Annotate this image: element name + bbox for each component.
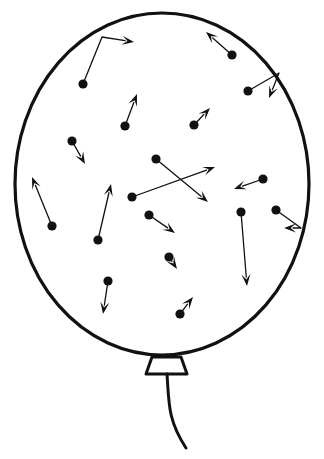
particle-dot xyxy=(103,276,112,285)
particle-dot xyxy=(120,121,129,130)
particle-dot xyxy=(227,50,236,59)
balloon-body xyxy=(15,13,309,355)
balloon-group xyxy=(15,13,309,448)
particle-dot xyxy=(127,192,136,201)
balloon-string xyxy=(167,374,186,448)
particle-dot xyxy=(189,120,198,129)
balloon-gas-particles-diagram: Gas particles in a balloon Hand-drawn in… xyxy=(0,0,324,459)
particle-dot xyxy=(271,205,280,214)
balloon-neck-knot xyxy=(146,357,187,374)
particle-dot xyxy=(67,136,76,145)
particle-dot xyxy=(47,221,56,230)
particle-dot xyxy=(144,210,153,219)
particle-dot xyxy=(151,154,160,163)
particle-dot xyxy=(164,252,173,261)
particle-dot xyxy=(243,86,252,95)
particle-dot xyxy=(258,174,267,183)
particle-dot xyxy=(93,235,102,244)
diagram-root: Gas particles in a balloon Hand-drawn in… xyxy=(0,0,324,459)
particle-dot xyxy=(175,309,184,318)
particle-dot xyxy=(78,79,87,88)
particle-dot xyxy=(236,207,245,216)
